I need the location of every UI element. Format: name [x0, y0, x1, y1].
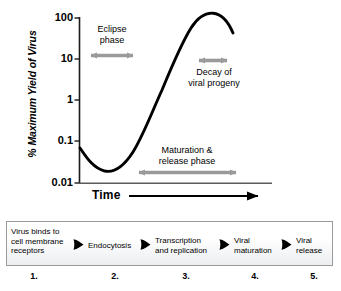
virus-growth-curve-figure: % Maximum Yield of Virus 100 10 1 0.1 0.…: [0, 0, 341, 291]
flow-arrow-icon-3: [219, 237, 230, 252]
decay-phase-line1: Decay of: [196, 67, 232, 77]
flow-arrow-icon-2: [140, 237, 151, 252]
step-number-5: 5.: [304, 271, 324, 281]
flow-step-3-line2: and replication: [155, 246, 207, 255]
flow-step-1-line2: cell membrane: [11, 237, 63, 246]
flow-step-4-line1: Viral: [234, 236, 250, 245]
maturation-phase-line1: Maturation &: [161, 145, 212, 155]
chart-graphics: [0, 0, 341, 212]
flow-arrow-icon-1: [73, 237, 84, 252]
eclipse-phase-line2: phase: [100, 35, 125, 45]
flow-step-4-line2: maturation: [234, 246, 272, 255]
flow-step-1-line3: receptors: [11, 246, 44, 255]
decay-phase-label: Decay of viral progeny: [178, 67, 250, 88]
eclipse-phase-label: Eclipse phase: [86, 24, 138, 45]
flow-arrow-icon-4: [281, 237, 292, 252]
maturation-phase-label: Maturation & release phase: [149, 145, 225, 166]
x-axis-label: Time: [92, 188, 121, 202]
flow-step-4: Viral maturation: [234, 236, 272, 255]
step-number-3: 3.: [176, 271, 196, 281]
flow-step-1: Virus binds to cell membrane receptors: [11, 227, 63, 256]
step-number-2: 2.: [105, 271, 125, 281]
flow-step-2: Endocytosis: [88, 241, 131, 251]
step-number-4: 4.: [245, 271, 265, 281]
flow-step-3: Transcription and replication: [155, 236, 207, 255]
flow-step-1-line1: Virus binds to: [11, 227, 59, 236]
decay-phase-line2: viral progeny: [188, 78, 240, 88]
flow-step-5: Viral release: [296, 236, 322, 255]
y-axis: [75, 17, 80, 184]
flow-step-2-line1: Endocytosis: [88, 241, 131, 250]
flow-step-3-line1: Transcription: [155, 236, 201, 245]
maturation-phase-line2: release phase: [159, 156, 216, 166]
flow-step-5-line1: Viral: [296, 236, 312, 245]
chart-area: % Maximum Yield of Virus 100 10 1 0.1 0.…: [0, 0, 341, 212]
step-number-1: 1.: [24, 271, 44, 281]
flow-step-5-line2: release: [296, 246, 322, 255]
eclipse-phase-line1: Eclipse: [97, 24, 126, 34]
